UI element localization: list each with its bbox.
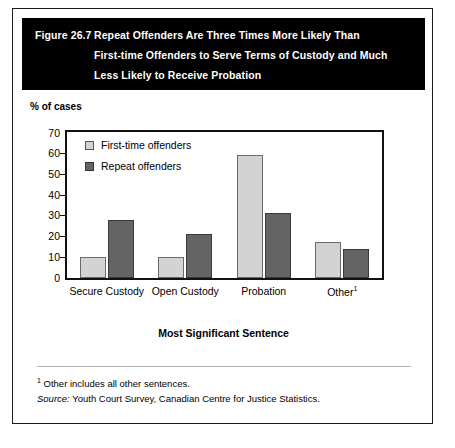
bar-secure-custody-repeat: [108, 220, 134, 278]
y-tick-label: 70: [38, 128, 60, 138]
legend-item-repeat: Repeat offenders: [85, 160, 191, 172]
y-tick-label: 10: [38, 252, 60, 262]
source-text: Youth Court Survey, Canadian Centre for …: [70, 393, 320, 404]
footnote: 1 Other includes all other sentences.: [37, 377, 190, 389]
y-tick-mark: [60, 153, 65, 154]
y-tick-label: 0: [38, 273, 60, 283]
legend-label-first-time: First-time offenders: [101, 139, 191, 151]
y-tick-mark: [60, 236, 65, 237]
bar-probation-first-time: [237, 155, 263, 277]
y-tick-mark: [60, 195, 65, 196]
x-axis-label-other: Other1: [282, 285, 402, 298]
source-label: Source:: [37, 393, 70, 404]
legend-swatch-first-time: [85, 141, 94, 150]
bar-open-custody-first-time: [158, 257, 184, 278]
y-axis-tick-labels: 010203040506070: [33, 9, 60, 309]
y-tick-label: 60: [38, 148, 60, 158]
y-tick-label: 30: [38, 210, 60, 220]
y-tick-label: 40: [38, 190, 60, 200]
bar-probation-repeat: [265, 213, 291, 277]
y-tick-mark: [60, 257, 65, 258]
legend-item-first-time: First-time offenders: [85, 139, 191, 151]
source-line: Source: Youth Court Survey, Canadian Cen…: [37, 393, 320, 404]
bar-chart: 010203040506070 First-time offendersRepe…: [13, 9, 434, 309]
bar-other-first-time: [315, 242, 341, 277]
y-tick-mark: [60, 215, 65, 216]
x-axis-label-superscript: 1: [353, 285, 357, 292]
bar-secure-custody-first-time: [80, 257, 106, 278]
chart-legend: First-time offendersRepeat offenders: [85, 139, 191, 181]
x-axis-title: Most Significant Sentence: [13, 327, 434, 339]
figure-card: Figure 26.7 Repeat Offenders Are Three T…: [12, 8, 433, 424]
legend-swatch-repeat: [85, 162, 94, 171]
y-tick-label: 50: [38, 169, 60, 179]
y-tick-mark: [60, 174, 65, 175]
bar-other-repeat: [343, 249, 369, 278]
footer-divider: [37, 366, 411, 367]
y-tick-label: 20: [38, 231, 60, 241]
legend-label-repeat: Repeat offenders: [101, 160, 181, 172]
footnote-text: Other includes all other sentences.: [41, 378, 190, 389]
bar-open-custody-repeat: [186, 234, 212, 278]
